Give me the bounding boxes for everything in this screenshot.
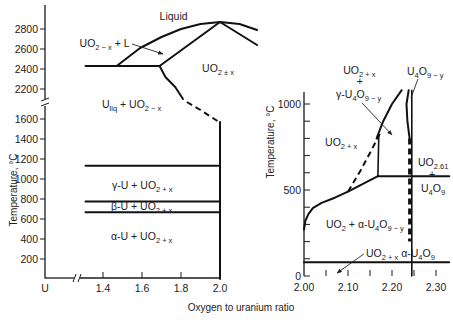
- label-u4o9-y: U4O9 − y: [407, 65, 444, 80]
- leader-line: [411, 79, 418, 98]
- left-region-labels: LiquidUO2 − x + LUO2 ± xUliq + UO2 − xγ-…: [80, 10, 235, 245]
- phase-boundary-solidus-right: [220, 22, 257, 45]
- left-x-axis-break-icon: [73, 274, 81, 282]
- x-axis-title: Oxygen to uranium ratio: [188, 302, 295, 313]
- pointer-arrow-icon: [362, 103, 392, 135]
- right-region-labels: UO2 + x+γ-U4O9 − yU4O9 − yUO2 + xUO2.61+…: [325, 64, 448, 273]
- label-gamma-u4o9-y: γ-U4O9 − y: [336, 88, 381, 103]
- label-plus-top: +: [357, 75, 363, 87]
- label-gamma-u: γ-U + UO2 + x: [112, 179, 173, 194]
- phase-boundary-liquidus: [117, 22, 257, 66]
- x-tick-label: 1.8: [174, 282, 189, 294]
- left-panel: 2004006008001000120014001600220024002600…: [8, 5, 257, 294]
- x-tick-label: 2.10: [338, 281, 359, 293]
- x-tick-label: U: [41, 282, 49, 294]
- label-alpha-u: α-U + UO2 + x: [111, 230, 173, 245]
- phase-boundary-gamma-boundary-vertical: [378, 135, 379, 176]
- y-tick-label: 2800: [15, 23, 39, 35]
- left-y-axis-break-icon: [41, 98, 49, 106]
- label-uo2+x-mid: UO2 + x: [325, 136, 357, 151]
- y-tick-label: 0: [295, 270, 301, 282]
- phase-diagram-figure: 2004006008001000120014001600220024002600…: [0, 0, 453, 320]
- label-uliq-uo2-x: Uliq + UO2 − x: [102, 98, 162, 113]
- left-y-axis-title: Temperature, °C: [8, 154, 19, 227]
- label-liquid: Liquid: [160, 10, 188, 22]
- y-tick-label: 2200: [15, 83, 39, 95]
- x-tick-label: 2.00: [294, 281, 315, 293]
- y-tick-label: 2600: [15, 43, 39, 55]
- label-uo2-alpha-u4o9-y: UO2 + α-U4O9 − y: [326, 218, 404, 233]
- x-tick-label: 1.4: [96, 282, 111, 294]
- right-y-axis-title: Temperature, °C: [265, 106, 276, 179]
- y-tick-label: 1000: [278, 98, 302, 110]
- x-tick-label: 2.0: [213, 282, 228, 294]
- phase-boundary-solidus-left: [160, 22, 220, 66]
- x-tick-label: 2.30: [426, 281, 447, 293]
- y-tick-label: 1400: [15, 133, 39, 145]
- y-tick-label: 600: [20, 213, 38, 225]
- right-ticks: 050010002.002.102.202.30: [278, 98, 447, 293]
- y-tick-label: 500: [283, 184, 301, 196]
- y-tick-label: 800: [20, 193, 38, 205]
- phase-diagram-svg: 2004006008001000120014001600220024002600…: [0, 0, 453, 320]
- label-uo2-x-plus-l: UO2 − x + L: [80, 37, 130, 52]
- x-tick-label: 1.6: [135, 282, 150, 294]
- phase-boundary-uo2-x-boundary-estimated: [187, 102, 219, 122]
- label-uo2-pm-x: UO2 ± x: [202, 62, 234, 77]
- phase-boundary-u4o9-y-left-boundary: [407, 90, 410, 138]
- y-tick-label: 2400: [15, 63, 39, 75]
- pointer-arrow-icon: [132, 44, 163, 54]
- y-tick-label: 400: [20, 233, 38, 245]
- x-tick-label: 2.20: [382, 281, 403, 293]
- right-panel: 050010002.002.102.202.30 UO2 + x+γ-U4O9 …: [265, 64, 449, 293]
- phase-boundary-uo2-x-boundary: [160, 66, 183, 99]
- pointer-arrow-icon: [337, 254, 364, 273]
- y-tick-label: 200: [20, 253, 38, 265]
- label-plus-right: +: [429, 168, 435, 180]
- y-tick-label: 1600: [15, 113, 39, 125]
- label-uo2+x-alpha-u4o9: UO2 + x α-U4O9: [366, 247, 435, 262]
- label-u4o9: U4O9: [421, 182, 445, 197]
